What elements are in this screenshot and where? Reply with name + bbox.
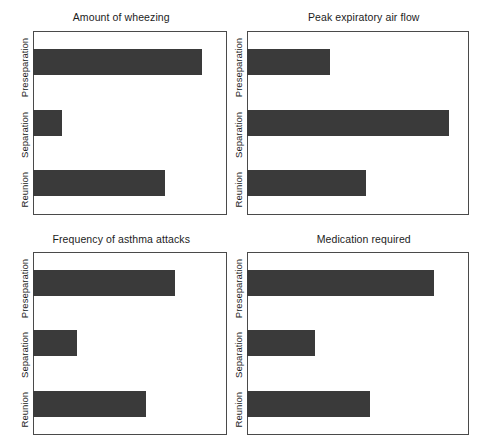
bar-row	[34, 330, 226, 356]
axis-label-separation: Separation	[20, 112, 30, 158]
axis-label-reunion: Reunion	[20, 392, 30, 427]
category-axis-labels: Preseparation Separation Reunion	[18, 31, 32, 215]
bar-separation	[247, 110, 450, 136]
plot-frame	[33, 31, 227, 215]
plot-frame	[247, 31, 470, 215]
axis-label-preseparation: Preseparation	[20, 259, 30, 318]
bar-group	[248, 253, 469, 435]
bar-row	[34, 170, 226, 196]
bar-row	[34, 110, 226, 136]
chart-panel-peak-expiratory-air-flow: Peak expiratory air flow Preseparation S…	[243, 0, 485, 222]
chart-title: Frequency of asthma attacks	[0, 233, 243, 245]
bar-group	[34, 253, 226, 435]
bar-preseparation	[33, 270, 175, 296]
chart-panel-frequency-of-asthma-attacks: Frequency of asthma attacks Preseparatio…	[0, 222, 243, 443]
chart-title: Peak expiratory air flow	[243, 11, 485, 23]
bar-separation	[33, 330, 77, 356]
bar-row	[248, 270, 469, 296]
bar-reunion	[247, 170, 366, 196]
bar-reunion	[33, 170, 165, 196]
bar-separation	[247, 330, 315, 356]
bar-group	[248, 32, 469, 214]
bar-row	[34, 270, 226, 296]
bar-reunion	[33, 391, 146, 417]
bar-reunion	[247, 391, 370, 417]
bar-row	[34, 391, 226, 417]
bar-row	[248, 391, 469, 417]
bar-row	[34, 49, 226, 75]
bar-preseparation	[247, 49, 331, 75]
chart-panel-amount-of-wheezing: Amount of wheezing Preseparation Separat…	[0, 0, 243, 222]
plot-frame	[33, 252, 227, 436]
bar-preseparation	[33, 49, 202, 75]
category-axis-labels: Preseparation Separation Reunion	[18, 252, 32, 436]
bar-row	[248, 330, 469, 356]
chart-title: Amount of wheezing	[0, 11, 243, 23]
bar-group	[34, 32, 226, 214]
bar-row	[248, 110, 469, 136]
bar-preseparation	[247, 270, 434, 296]
multi-panel-bar-chart-figure: Amount of wheezing Preseparation Separat…	[0, 0, 485, 443]
axis-label-separation: Separation	[20, 332, 30, 378]
chart-title: Medication required	[243, 233, 485, 245]
bar-row	[248, 49, 469, 75]
axis-label-reunion: Reunion	[20, 172, 30, 207]
axis-label-preseparation: Preseparation	[20, 38, 30, 97]
bar-separation	[33, 110, 62, 136]
plot-frame	[247, 252, 470, 436]
chart-panel-medication-required: Medication required Preseparation Separa…	[243, 222, 485, 443]
bar-row	[248, 170, 469, 196]
